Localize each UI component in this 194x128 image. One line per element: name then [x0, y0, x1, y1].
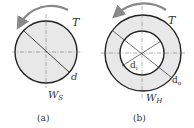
section-modulus-label: WH: [146, 92, 163, 105]
outer-diameter-label: do: [172, 75, 182, 86]
hollow-shaft-section: T di do WH (b): [101, 3, 186, 123]
solid-shaft-section: T d WS (a): [12, 6, 82, 123]
torque-label: T: [168, 14, 177, 27]
shaft-sections-diagram: T d WS (a) T di do WH (b): [0, 0, 194, 128]
section-modulus-label: WS: [48, 89, 63, 102]
diameter-label: d: [71, 71, 77, 82]
caption-b: (b): [133, 113, 146, 123]
torque-label: T: [72, 16, 81, 29]
torque-arrow-icon: [117, 3, 166, 14]
caption-a: (a): [37, 113, 49, 123]
